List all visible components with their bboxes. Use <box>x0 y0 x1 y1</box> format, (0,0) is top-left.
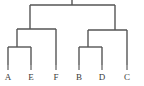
leaf-label-f: F <box>53 72 58 82</box>
dendrogram-canvas: AEFBDC <box>0 0 144 86</box>
leaf-labels-group: AEFBDC <box>5 72 130 82</box>
leaf-label-c: C <box>124 72 130 82</box>
merge-links-group <box>8 5 127 65</box>
leaf-label-e: E <box>28 72 34 82</box>
dendrogram-figure: AEFBDC <box>0 0 144 86</box>
leaf-label-a: A <box>5 72 12 82</box>
leaf-label-d: D <box>99 72 106 82</box>
leaf-stems-group <box>8 65 127 70</box>
leaf-label-b: B <box>76 72 82 82</box>
